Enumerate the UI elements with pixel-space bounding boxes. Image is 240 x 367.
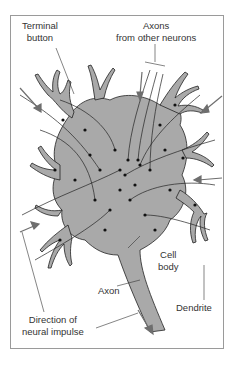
label-terminal-button: Terminal button	[22, 20, 58, 44]
label-axon: Axon	[98, 285, 120, 297]
neuron-cell	[30, 65, 214, 332]
label-direction-of-impulse: Direction of neural impulse	[22, 314, 84, 338]
label-axons-from-other-neurons: Axons from other neurons	[116, 20, 196, 44]
label-dendrite: Dendrite	[176, 302, 212, 314]
label-cell-body: Cell body	[158, 249, 179, 273]
